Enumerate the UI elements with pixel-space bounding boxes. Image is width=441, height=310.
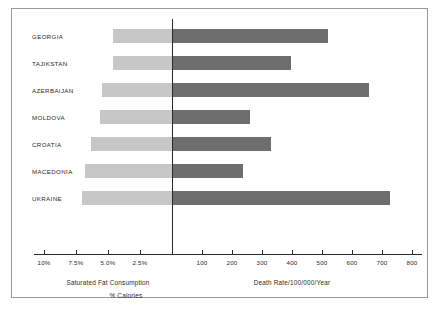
chart-frame: GEORGIATAJIKSTANAZERBAIJANMOLDOVACROATIA…	[11, 8, 428, 298]
x-axis-line	[34, 254, 422, 255]
chart-row: MOLDOVA	[12, 103, 429, 130]
bar-saturated-fat	[113, 56, 172, 70]
chart-row: GEORGIA	[12, 22, 429, 49]
category-label: CROATIA	[32, 140, 62, 147]
axis-tick-label-fat: 2.5%	[133, 259, 148, 266]
axis-tick-label-fat: 7.5%	[69, 259, 84, 266]
axis-tick-label-fat: 5.0%	[101, 259, 116, 266]
axis-caption-death-rate: Death Rate/100/000/Year	[254, 279, 331, 286]
chart-row: CROATIA	[12, 130, 429, 157]
axis-tick-label-death: 400	[287, 259, 298, 266]
bar-saturated-fat	[100, 110, 172, 124]
bar-saturated-fat	[82, 191, 172, 205]
axis-tick-mark	[262, 250, 263, 254]
bar-death-rate	[172, 56, 291, 70]
axis-caption-percent-calories: % Calories	[109, 292, 142, 299]
bar-saturated-fat	[85, 164, 172, 178]
axis-tick-mark	[202, 250, 203, 254]
category-label: UKRAINE	[32, 194, 62, 201]
zero-axis-line	[172, 19, 173, 254]
axis-tick-mark	[412, 250, 413, 254]
bar-death-rate	[172, 29, 328, 43]
chart-row: AZERBAIJAN	[12, 76, 429, 103]
axis-tick-mark	[292, 250, 293, 254]
axis-tick-mark	[382, 250, 383, 254]
axis-tick-label-death: 500	[317, 259, 328, 266]
axis-caption-saturated-fat: Saturated Fat Consumption	[66, 279, 149, 286]
bar-death-rate	[172, 110, 250, 124]
axis-tick-mark	[322, 250, 323, 254]
chart-row: TAJIKSTAN	[12, 49, 429, 76]
axis-tick-label-death: 300	[257, 259, 268, 266]
axis-tick-mark	[76, 250, 77, 254]
chart-row: MACEDONIA	[12, 157, 429, 184]
axis-tick-mark	[140, 250, 141, 254]
bar-saturated-fat	[102, 83, 172, 97]
category-label: GEORGIA	[32, 32, 63, 39]
bar-death-rate	[172, 164, 243, 178]
axis-tick-mark	[44, 250, 45, 254]
bar-saturated-fat	[113, 29, 172, 43]
category-label: MOLDOVA	[32, 113, 65, 120]
bar-death-rate	[172, 83, 369, 97]
axis-tick-mark	[232, 250, 233, 254]
axis-tick-label-death: 600	[347, 259, 358, 266]
axis-tick-label-death: 700	[377, 259, 388, 266]
axis-tick-label-death: 800	[407, 259, 418, 266]
chart-row: UKRAINE	[12, 184, 429, 211]
axis-tick-label-death: 100	[197, 259, 208, 266]
category-label: AZERBAIJAN	[32, 86, 74, 93]
axis-tick-label-fat: 10%	[38, 259, 51, 266]
category-label: TAJIKSTAN	[32, 59, 68, 66]
bar-death-rate	[172, 137, 271, 151]
axis-tick-mark	[108, 250, 109, 254]
bar-saturated-fat	[91, 137, 172, 151]
category-label: MACEDONIA	[32, 167, 73, 174]
bar-death-rate	[172, 191, 390, 205]
axis-tick-label-death: 200	[227, 259, 238, 266]
axis-tick-mark	[352, 250, 353, 254]
plot-area: GEORGIATAJIKSTANAZERBAIJANMOLDOVACROATIA…	[12, 9, 429, 299]
